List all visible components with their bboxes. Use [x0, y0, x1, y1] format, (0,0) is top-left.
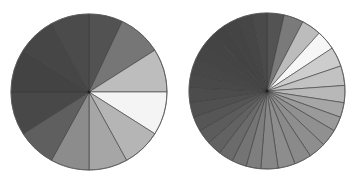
chart-stage [0, 0, 359, 188]
pie-center-dot [87, 90, 90, 93]
pie-center-dot [265, 89, 268, 92]
pie-charts [0, 0, 359, 188]
pie-chart-right [189, 13, 345, 169]
pie-chart-left [11, 14, 167, 170]
